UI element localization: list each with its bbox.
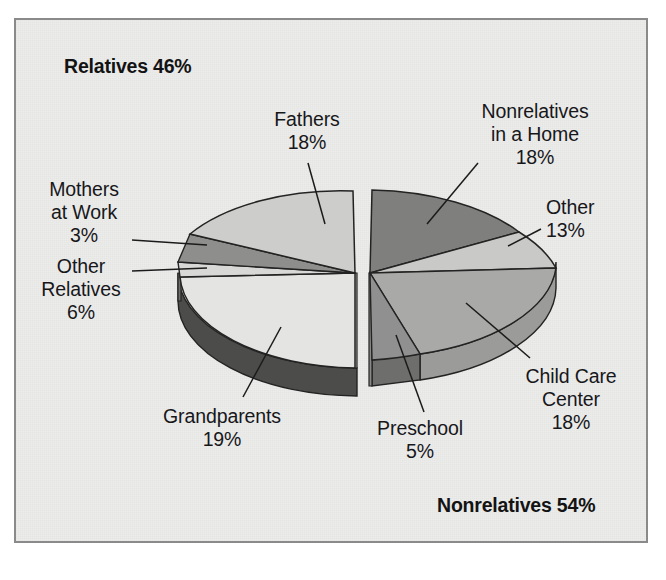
pie-half-relatives [178, 191, 357, 396]
slice-label-other-nonrelative: Other 13% [546, 196, 644, 242]
slice-label-grandparents: Grandparents 19% [136, 405, 308, 451]
slice-label-preschool: Preschool 5% [355, 417, 485, 463]
group-label-nonrelatives: Nonrelatives 54% [437, 494, 595, 517]
slice-label-mothers-at-work: Mothers at Work 3% [22, 178, 146, 247]
group-label-relatives: Relatives 46% [64, 55, 191, 78]
slice-grandparents [180, 273, 355, 368]
pie-chart-figure: Relatives 46% Nonrelatives 54% Fathers 1… [0, 0, 666, 580]
slice-label-other-relatives: Other Relatives 6% [16, 255, 146, 324]
slice-label-child-care-center: Child Care Center 18% [500, 365, 642, 434]
slice-label-nonrelatives-in-home: Nonrelatives in a Home 18% [451, 100, 619, 169]
slice-label-fathers: Fathers 18% [247, 108, 367, 154]
